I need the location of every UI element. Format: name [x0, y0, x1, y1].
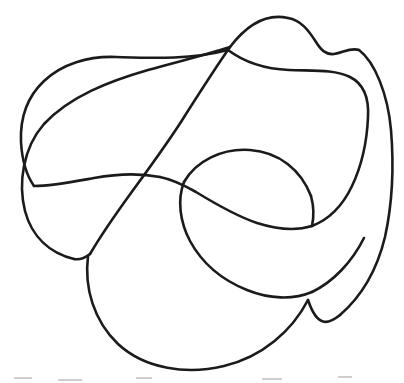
paper-speck — [262, 378, 282, 380]
paper-speck — [14, 377, 32, 379]
knot-figure-container — [0, 0, 404, 383]
knot-diagram-svg — [0, 0, 404, 383]
paper-speck — [58, 379, 82, 381]
paper-background — [0, 0, 404, 383]
paper-speck — [338, 376, 352, 378]
paper-speck — [136, 377, 152, 379]
